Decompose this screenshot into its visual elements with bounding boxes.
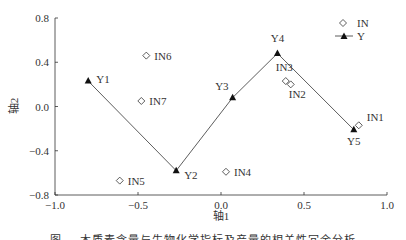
point-label-y1: Y1 [96,73,109,85]
diamond-marker-in7 [138,97,145,104]
point-label-in2: IN2 [289,88,306,100]
figure-caption-clip: 图 ... 木质素含量与生物化学指标及产量的相关性冗余分析 [0,229,406,240]
diamond-marker-in4 [222,168,229,175]
triangle-marker-y1 [85,77,92,84]
axes [55,18,387,195]
y-series-polyline [88,53,354,170]
x-tick-label: −0.5 [128,199,148,211]
figure-caption: 图 ... 木质素含量与生物化学指标及产量的相关性冗余分析 [0,231,406,240]
triangle-marker-y4 [274,49,281,56]
biplot-chart: 0.80.40.0−0.4−0.8−1.0−0.50.00.51.0 IN1IN… [0,0,406,240]
x-tick-label: 0.5 [297,199,311,211]
point-label-y3: Y3 [215,80,229,92]
y-tick-label: 0.4 [35,56,49,68]
point-label-in6: IN6 [154,50,172,62]
point-label-in1: IN1 [367,111,384,123]
point-label-in7: IN7 [149,95,167,107]
y-tick-label: 0.0 [35,101,49,113]
data-points [85,49,363,184]
y-series-line [88,53,354,170]
point-label-in5: IN5 [128,175,146,187]
y-tick-label: −0.4 [29,145,49,157]
y-tick-label: 0.8 [35,12,49,24]
y-axis-label: 轴2 [7,98,20,115]
point-label-in3: IN3 [276,61,294,73]
x-tick-label: 1.0 [380,199,394,211]
diamond-marker-in6 [143,52,150,59]
point-label-y4: Y4 [271,32,285,44]
point-label-y2: Y2 [184,169,197,181]
tick-labels: 0.80.40.0−0.4−0.8−1.0−0.50.00.51.0 [29,12,394,211]
x-tick-label: −1.0 [45,199,65,211]
point-label-y5: Y5 [347,135,361,147]
triangle-marker-y3 [229,94,236,101]
diamond-marker-in1 [355,122,362,129]
legend-diamond-icon [340,20,347,27]
legend-label-y: Y [357,30,365,42]
diamond-marker-in5 [116,177,123,184]
legend-label-in: IN [357,17,369,29]
x-axis-label: 轴1 [213,209,230,222]
legend: INY [335,17,369,42]
point-label-in4: IN4 [234,166,252,178]
point-labels: IN1IN2IN3IN4IN5IN6IN7Y1Y2Y3Y4Y5 [96,32,384,186]
